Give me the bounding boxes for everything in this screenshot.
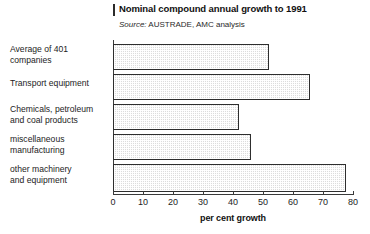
x-tick	[113, 191, 114, 195]
x-tick	[353, 191, 354, 195]
bar-row	[113, 104, 239, 130]
category-label-2: Chemicals, petroleumand coal products	[10, 104, 112, 125]
chart-title: Nominal compound annual growth to 1991	[119, 3, 307, 15]
x-tick-label: 60	[281, 197, 305, 208]
x-tick	[173, 191, 174, 195]
source-text: AUSTRADE, AMC analysis	[147, 20, 245, 29]
bar-chart-figure: Nominal compound annual growth to 1991 S…	[0, 0, 370, 234]
source-label: Source:	[119, 20, 147, 29]
x-tick-label: 0	[101, 197, 125, 208]
value-axis-title: per cent growth	[113, 213, 353, 223]
category-label-line: Transport equipment	[10, 78, 112, 89]
category-label-1: Transport equipment	[10, 78, 112, 89]
bar-2	[113, 104, 239, 130]
bar-0	[113, 44, 269, 70]
category-label-line: Chemicals, petroleum	[10, 104, 112, 115]
bar-row	[113, 164, 346, 192]
bar-row	[113, 44, 269, 70]
chart-source: Source: AUSTRADE, AMC analysis	[119, 20, 365, 30]
x-tick-label: 30	[191, 197, 215, 208]
chart-header: Nominal compound annual growth to 1991 S…	[113, 3, 365, 30]
bar-3	[113, 134, 251, 160]
x-tick	[203, 191, 204, 195]
x-tick-label: 40	[221, 197, 245, 208]
title-rule-decoration	[113, 4, 115, 16]
x-tick-label: 80	[341, 197, 365, 208]
x-tick-label: 70	[311, 197, 335, 208]
category-label-line: and coal products	[10, 115, 112, 126]
x-tick	[293, 191, 294, 195]
bar-4	[113, 164, 346, 192]
x-tick	[323, 191, 324, 195]
value-axis: per cent growth 01020304050607080	[113, 194, 353, 234]
category-label-4: other machineryand equipment	[10, 164, 112, 185]
category-label-line: miscellaneous	[10, 134, 112, 145]
category-label-line: other machinery	[10, 164, 112, 175]
category-label-line: companies	[10, 55, 112, 66]
category-axis-labels: Average of 401companiesTransport equipme…	[0, 42, 110, 194]
category-label-0: Average of 401companies	[10, 44, 112, 65]
x-tick	[233, 191, 234, 195]
x-tick-label: 50	[251, 197, 275, 208]
bar-1	[113, 74, 310, 100]
x-tick-label: 10	[131, 197, 155, 208]
plot-area	[113, 42, 353, 194]
title-row: Nominal compound annual growth to 1991	[113, 3, 365, 16]
x-tick	[143, 191, 144, 195]
category-label-line: manufacturing	[10, 145, 112, 156]
x-tick	[263, 191, 264, 195]
category-label-line: and equipment	[10, 175, 112, 186]
bar-row	[113, 74, 310, 100]
bar-row	[113, 134, 251, 160]
category-label-3: miscellaneousmanufacturing	[10, 134, 112, 155]
x-tick-label: 20	[161, 197, 185, 208]
category-label-line: Average of 401	[10, 44, 112, 55]
